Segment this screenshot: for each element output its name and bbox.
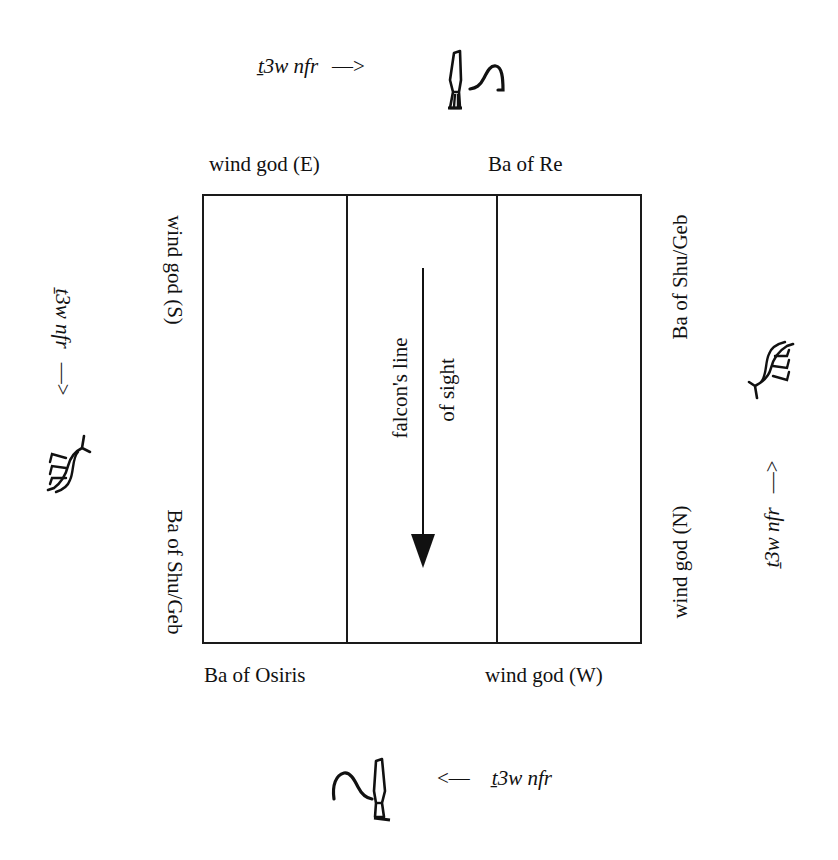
- label-ba-of-re: Ba of Re: [488, 154, 563, 175]
- divider-left: [346, 194, 348, 644]
- label-ba-of-osiris: Ba of Osiris: [204, 665, 306, 686]
- bottom-inscription-text: ṯ3w nfr: [492, 766, 552, 790]
- top-inscription-arrow: —>: [332, 54, 365, 78]
- hieroglyph-arch-knife-icon: [326, 755, 394, 821]
- left-inscription-text: ṯ3w nfr: [51, 289, 75, 349]
- label-wind-god-east: wind god (E): [209, 154, 320, 175]
- label-ba-of-shu-geb-right: Ba of Shu/Geb: [670, 215, 691, 340]
- label-of-sight: of sight: [437, 358, 458, 422]
- left-inscription: ṯ3w nfr —>: [52, 289, 73, 396]
- label-ba-of-shu-geb-left: Ba of Shu/Geb: [164, 510, 185, 635]
- hieroglyph-animal-right-icon: [745, 338, 797, 402]
- divider-right: [496, 194, 498, 644]
- label-wind-god-south: wind god (S): [164, 215, 185, 325]
- label-wind-god-west: wind god (W): [485, 665, 603, 686]
- label-wind-god-north: wind god (N): [670, 505, 691, 618]
- top-inscription-text: ṯ3w nfr: [258, 54, 318, 78]
- right-inscription: ṯ3w nfr —>: [762, 461, 783, 568]
- hieroglyph-knife-arch-icon: [446, 48, 510, 110]
- left-inscription-arrow: —>: [51, 363, 75, 396]
- hieroglyph-animal-left-icon: [44, 432, 96, 494]
- top-inscription: ṯ3w nfr —>: [258, 56, 365, 77]
- bottom-inscription: <— ṯ3w nfr: [437, 768, 552, 789]
- right-inscription-text: ṯ3w nfr: [760, 507, 784, 567]
- falcon-line-of-sight-arrow-icon: [408, 266, 438, 570]
- bottom-inscription-arrow: <—: [437, 766, 470, 790]
- right-inscription-arrow: —>: [760, 461, 784, 494]
- label-falcons-line: falcon's line: [390, 337, 411, 438]
